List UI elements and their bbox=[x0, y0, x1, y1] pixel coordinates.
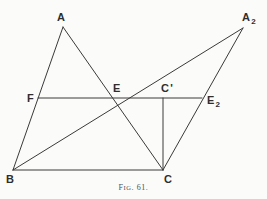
vertex-label-C-prime-text: C bbox=[161, 82, 169, 94]
figure-caption: FIG. 61. bbox=[0, 183, 267, 192]
vertex-label-A: A bbox=[57, 12, 65, 23]
vertex-label-F-text: F bbox=[27, 92, 34, 104]
vertex-label-E-text: E bbox=[113, 82, 121, 94]
vertex-label-A2-text: A bbox=[242, 11, 250, 23]
vertex-label-A2-subscript: 2 bbox=[250, 17, 256, 26]
vertex-label-A2: A2 bbox=[242, 12, 256, 26]
vertex-label-F: F bbox=[27, 93, 34, 104]
vertex-label-E2-text: E bbox=[207, 94, 215, 106]
vertex-label-E: E bbox=[113, 83, 121, 94]
vertex-label-E2-subscript: 2 bbox=[215, 100, 221, 109]
vertex-label-A-text: A bbox=[57, 11, 65, 23]
vertex-label-E2: E2 bbox=[207, 95, 220, 109]
segment-C-A2 bbox=[163, 28, 243, 170]
geometry-diagram bbox=[0, 0, 267, 199]
figure-container: A A2 B C C' E E2 F FIG. 61. bbox=[0, 0, 267, 199]
prime-mark: ' bbox=[169, 82, 173, 94]
caption-number: . 61. bbox=[131, 183, 148, 192]
vertex-label-C-prime: C' bbox=[161, 83, 173, 94]
